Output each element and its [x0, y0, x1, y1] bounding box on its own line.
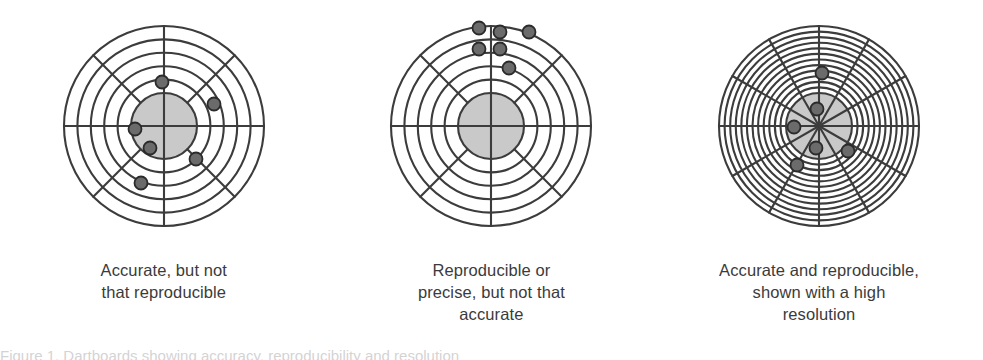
caption-1-line-2: that reproducible — [39, 282, 289, 304]
caption-3-line-1: Accurate and reproducible, — [694, 260, 944, 282]
figure-root: Accurate, but not that reproducible Repr… — [0, 0, 983, 360]
figure-caption-note: Figure 1. Dartboards showing accuracy, r… — [0, 347, 983, 360]
caption-3-line-3: resolution — [694, 304, 944, 326]
caption-3: Accurate and reproducible, shown with a … — [694, 260, 944, 326]
caption-2-line-1: Reproducible or — [366, 260, 616, 282]
panel-accurate-and-reproducible: Accurate and reproducible, shown with a … — [655, 0, 983, 360]
target-svg-2 — [371, 6, 611, 254]
panel-accurate-not-reproducible: Accurate, but not that reproducible — [0, 0, 328, 360]
caption-3-line-2: shown with a high — [694, 282, 944, 304]
caption-2-line-2: precise, but not that — [366, 282, 616, 304]
target-panels: Accurate, but not that reproducible Repr… — [0, 0, 983, 360]
target-diagram-1 — [44, 6, 284, 254]
caption-1-line-1: Accurate, but not — [39, 260, 289, 282]
caption-2-line-3: accurate — [366, 304, 616, 326]
panel-reproducible-not-accurate: Reproducible or precise, but not that ac… — [328, 0, 656, 360]
target-diagram-3 — [699, 6, 939, 254]
target-svg-1 — [44, 6, 284, 254]
caption-1: Accurate, but not that reproducible — [39, 260, 289, 304]
target-diagram-2 — [371, 6, 611, 254]
target-svg-3 — [699, 6, 939, 254]
caption-2: Reproducible or precise, but not that ac… — [366, 260, 616, 326]
